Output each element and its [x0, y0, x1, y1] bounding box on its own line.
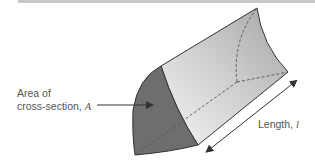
area-label-line2: cross-section, A — [17, 100, 91, 113]
conductor-diagram — [0, 0, 315, 168]
length-symbol: l — [296, 119, 299, 130]
length-label: Length, l — [258, 118, 299, 131]
area-label: Area of cross-section, A — [17, 87, 91, 113]
area-label-line1: Area of — [17, 87, 91, 100]
area-symbol: A — [85, 101, 91, 112]
